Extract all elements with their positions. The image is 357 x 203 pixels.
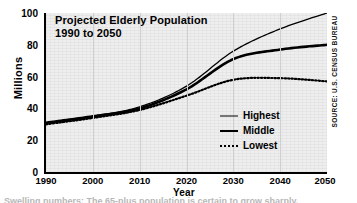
legend-item-highest: Highest xyxy=(220,108,280,123)
source-credit: SOURCE: U.S. CENSUS BUREAU xyxy=(331,2,338,142)
legend-label-middle: Middle xyxy=(243,125,275,136)
y-tick-label: 40 xyxy=(0,103,38,114)
y-tick-label: 80 xyxy=(0,39,38,50)
legend-item-middle: Middle xyxy=(220,123,280,138)
x-tick-label: 2020 xyxy=(162,175,212,186)
x-tick-label: 2040 xyxy=(255,175,305,186)
plot-area: Projected Elderly Population 1990 to 205… xyxy=(44,13,327,174)
legend-label-highest: Highest xyxy=(243,110,280,121)
x-tick-label: 2050 xyxy=(300,175,350,186)
chart-legend: Highest Middle Lowest xyxy=(220,108,280,153)
gridline xyxy=(280,13,281,172)
x-tick-label: 2000 xyxy=(68,175,118,186)
x-tick-label: 2030 xyxy=(208,175,258,186)
legend-swatch-highest-icon xyxy=(220,111,238,121)
legend-label-lowest: Lowest xyxy=(243,140,277,151)
x-tick-label: 2010 xyxy=(115,175,165,186)
chart-figure: Millions 100 80 60 40 20 0 Projected Eld… xyxy=(0,0,357,203)
legend-item-lowest: Lowest xyxy=(220,138,280,153)
y-tick-label: 100 xyxy=(0,8,38,19)
legend-swatch-lowest-icon xyxy=(220,141,238,151)
x-tick-label: 1990 xyxy=(21,175,71,186)
y-tick-label: 20 xyxy=(0,135,38,146)
figure-caption: Swelling numbers: The 65-plus population… xyxy=(4,196,354,203)
chart-title-line1: Projected Elderly Population xyxy=(55,14,208,27)
chart-title: Projected Elderly Population 1990 to 205… xyxy=(55,14,208,40)
chart-title-line2: 1990 to 2050 xyxy=(55,27,208,40)
legend-swatch-middle-icon xyxy=(220,126,238,136)
y-tick-label: 60 xyxy=(0,71,38,82)
